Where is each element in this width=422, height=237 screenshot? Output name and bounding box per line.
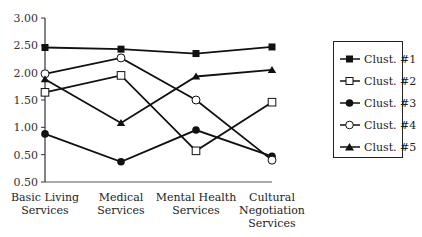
data-point <box>192 96 200 104</box>
x-category-label: Services <box>21 204 69 217</box>
legend-item-clust-2: Clust. #2 <box>340 74 416 88</box>
legend-label: Clust. #3 <box>364 97 416 110</box>
data-point <box>117 54 125 62</box>
square-filled-marker-icon <box>340 54 360 64</box>
x-category-label: Services <box>172 204 220 217</box>
y-tick-label: 3.00 <box>14 12 39 25</box>
data-point <box>268 98 276 106</box>
series-clust-4 <box>41 54 276 164</box>
y-tick-label: 2.50 <box>14 39 39 52</box>
data-point <box>41 130 49 138</box>
square-open-marker-icon <box>340 76 360 86</box>
x-category-label: Basic Living <box>11 191 79 204</box>
data-point <box>193 50 200 57</box>
y-tick-label: 1.50 <box>14 94 39 107</box>
triangle-filled-marker-icon <box>340 142 360 152</box>
data-point <box>117 119 125 126</box>
series-clust-5 <box>41 66 276 126</box>
axes: 3.002.502.001.501.000.500.50Basic Living… <box>11 12 305 230</box>
series-clust-2 <box>41 72 276 155</box>
x-category-label: Cultural <box>249 191 295 204</box>
series-clust-3 <box>41 126 276 165</box>
data-point <box>118 46 125 53</box>
x-category-label: Negotiation <box>239 204 305 217</box>
legend-item-clust-4: Clust. #4 <box>340 118 416 132</box>
y-tick-label: 2.00 <box>14 67 39 80</box>
x-category-label: Mental Health <box>156 191 237 204</box>
circle-filled-marker-icon <box>340 98 360 108</box>
data-point <box>42 44 49 51</box>
data-point <box>117 72 125 80</box>
data-point <box>192 126 200 134</box>
series-clust-1 <box>42 43 276 57</box>
y-tick-label: 1.00 <box>14 121 39 134</box>
circle-open-marker-icon <box>340 120 360 130</box>
x-category-label: Services <box>97 204 145 217</box>
x-category-label: Medical <box>99 191 144 204</box>
data-point <box>268 156 276 164</box>
data-point <box>117 158 125 166</box>
series-group <box>41 43 276 165</box>
data-point <box>192 147 200 155</box>
legend-label: Clust. #5 <box>364 141 416 154</box>
legend-item-clust-5: Clust. #5 <box>340 140 416 154</box>
legend-label: Clust. #2 <box>364 75 416 88</box>
legend-item-clust-1: Clust. #1 <box>340 52 416 66</box>
legend-item-clust-3: Clust. #3 <box>340 96 416 110</box>
legend-label: Clust. #1 <box>364 53 416 66</box>
data-point <box>269 43 276 50</box>
legend: Clust. #1 Clust. #2 Clust. #3 Clust. #4 … <box>333 41 403 158</box>
y-tick-label: 0.50 <box>14 149 39 162</box>
x-category-label: Services <box>248 217 296 230</box>
legend-label: Clust. #4 <box>364 119 416 132</box>
data-point <box>41 89 49 97</box>
y-tick-label: 0.50 <box>14 176 39 189</box>
